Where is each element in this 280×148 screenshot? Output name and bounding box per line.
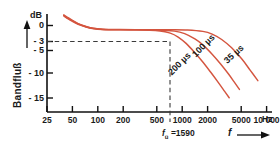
cutoff-annotation: fü =1590 [162,128,195,140]
x-tick-label-200: 200 [111,116,135,125]
y-tick-marks [47,26,53,99]
x-axis-unit-label: Hz [262,115,272,124]
y-tick-label-m5: - 5 [20,46,44,55]
x-tick-label-2000: 2000 [194,116,222,125]
curve-200-s [64,15,229,98]
x-tick-label-100: 100 [86,116,110,125]
curve-100-s [64,15,240,89]
y-tick-label-m15: - 15 [20,94,44,103]
curve-35-s [64,16,258,81]
y-tick-label-0: 0 [20,21,44,30]
y-tick-label-m10: - 10 [20,69,44,78]
cutoff-value: =1590 [169,128,195,138]
x-tick-label-25: 25 [37,116,57,125]
x-tick-label-50: 50 [62,116,82,125]
bandfluss-frequency-response-chart: Bandfluß dB [0,0,280,148]
x-tick-label-1000: 1000 [168,116,196,125]
x-axis-symbol-label: f [228,128,231,138]
x-tick-label-500: 500 [145,116,169,125]
x-axis-arrow [237,132,270,139]
x-tick-marks [47,106,267,112]
